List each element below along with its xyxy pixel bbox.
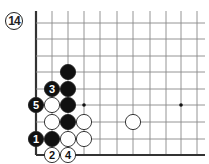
- move-number-label: 3: [49, 83, 55, 95]
- white-stone: [76, 114, 91, 129]
- star-point-icon: [179, 103, 183, 107]
- black-stone: [60, 64, 75, 79]
- white-stone: [44, 97, 59, 112]
- black-stone: [44, 131, 59, 146]
- white-stone: [44, 114, 59, 129]
- black-stone: 5: [28, 97, 43, 112]
- move-number-label: 5: [33, 99, 39, 111]
- white-stone: 4: [60, 147, 75, 162]
- black-stone: 1: [28, 131, 43, 146]
- board-grid: [36, 11, 205, 155]
- black-stone: [60, 114, 75, 129]
- move-number-label: 2: [49, 149, 55, 161]
- white-stone: 2: [44, 147, 59, 162]
- white-stone: [60, 131, 75, 146]
- white-stone: [76, 131, 91, 146]
- black-stone: [60, 97, 75, 112]
- move-number-label: 1: [33, 133, 39, 145]
- go-board: 35124: [0, 0, 209, 164]
- black-stone: 3: [44, 81, 59, 96]
- stones-layer: 35124: [28, 64, 140, 162]
- star-point-icon: [82, 103, 86, 107]
- white-stone: [125, 114, 140, 129]
- black-stone: [60, 81, 75, 96]
- move-number-label: 4: [65, 149, 72, 161]
